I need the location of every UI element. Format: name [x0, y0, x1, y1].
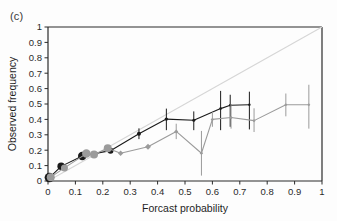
data-point-black-series [165, 117, 168, 120]
data-point-gray-series [145, 144, 151, 150]
series-line-gray-series [51, 105, 309, 177]
x-tick-label: 0.6 [206, 186, 219, 197]
y-axis-title: Observed frequency [6, 56, 18, 151]
x-tick-label: 0.8 [261, 186, 274, 197]
figure-panel: (c) 00.10.20.30.40.50.60.70.80.9100.10.2… [0, 0, 337, 221]
x-tick-label: 0 [45, 186, 50, 197]
y-tick-label: 0 [37, 175, 42, 186]
data-point-gray-series [211, 118, 215, 122]
data-point-gray-series [118, 151, 123, 156]
x-tick-label: 0.2 [96, 186, 109, 197]
data-point-gray-series [307, 103, 310, 106]
y-tick-label: 1 [37, 21, 42, 32]
y-tick-label: 0.3 [29, 129, 42, 140]
y-tick-label: 0.6 [29, 83, 42, 94]
data-point-gray-series [82, 149, 91, 158]
y-tick-label: 0.2 [29, 145, 42, 156]
x-tick-label: 0.9 [288, 186, 301, 197]
y-tick-label: 0.9 [29, 37, 42, 48]
data-point-black-series [137, 132, 141, 136]
reliability-diagram: 00.10.20.30.40.50.60.70.80.9100.10.20.30… [0, 0, 337, 221]
series-line-black-series [49, 105, 249, 178]
y-tick-label: 0.5 [29, 98, 42, 109]
x-tick-label: 0.7 [233, 186, 246, 197]
data-point-black-series [248, 104, 250, 106]
y-tick-label: 0.8 [29, 52, 42, 63]
data-point-black-series [192, 119, 195, 122]
x-tick-label: 1 [319, 186, 324, 197]
x-axis-title: Forcast probability [142, 202, 229, 214]
x-tick-label: 0.1 [69, 186, 82, 197]
x-tick-label: 0.5 [178, 186, 191, 197]
x-tick-label: 0.4 [151, 186, 164, 197]
y-tick-label: 0.7 [29, 68, 42, 79]
data-point-gray-series [47, 173, 55, 181]
data-point-gray-series [104, 144, 112, 152]
y-tick-label: 0.1 [29, 160, 42, 171]
y-tick-label: 0.4 [29, 114, 42, 125]
reference-diagonal-line [48, 27, 322, 181]
x-tick-label: 0.3 [124, 186, 137, 197]
chart-plot-area: 00.10.20.30.40.50.60.70.80.9100.10.20.30… [6, 21, 325, 214]
data-point-gray-series [90, 151, 98, 159]
data-point-gray-series [61, 164, 68, 171]
data-point-black-series [219, 107, 222, 110]
